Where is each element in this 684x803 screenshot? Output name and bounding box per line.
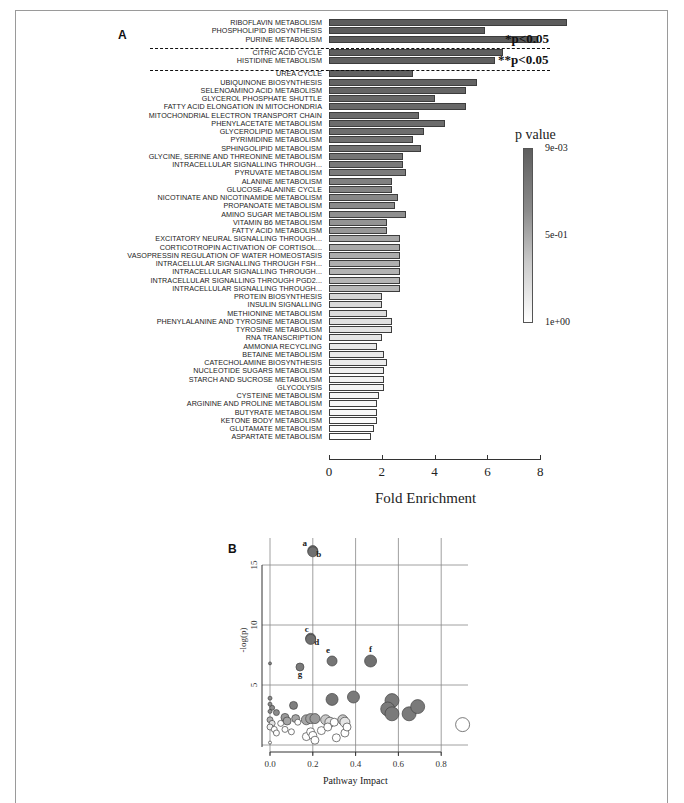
data-point [269, 741, 272, 744]
y-tick-label: 15 [249, 560, 259, 570]
data-point [330, 718, 338, 726]
data-point [343, 723, 351, 731]
data-point [268, 709, 272, 713]
data-point [268, 702, 272, 706]
x-tick-label: 0.2 [307, 759, 318, 769]
data-point [282, 726, 288, 732]
point-label-g: g [298, 669, 303, 679]
data-point [332, 734, 340, 742]
pathway-impact-scatter-plot: 0.00.20.40.60.851015-log(p)abcdefg [0, 0, 684, 803]
data-point [268, 696, 272, 700]
point-label-a: a [303, 538, 308, 548]
x-tick-label: 0.6 [393, 759, 405, 769]
point-label-b: b [316, 549, 321, 559]
point-label-c: c [305, 624, 309, 634]
data-point [283, 717, 291, 725]
data-point [273, 710, 279, 716]
x-axis-b-title: Pathway Impact [323, 775, 388, 786]
data-point [295, 719, 301, 725]
data-point [385, 707, 399, 721]
data-point [365, 655, 377, 667]
data-point [310, 714, 320, 724]
data-point [288, 729, 294, 735]
point-label-e: e [326, 645, 330, 655]
data-point [347, 691, 359, 703]
data-point [411, 700, 425, 714]
x-tick-label: 0.4 [350, 759, 362, 769]
point-label-d: d [314, 637, 319, 647]
x-tick-label: 0.0 [264, 759, 276, 769]
data-point [273, 730, 279, 736]
y-tick-label: 5 [249, 682, 259, 687]
y-axis-b-title: -log(p) [238, 628, 248, 653]
data-point [456, 718, 470, 732]
point-label-f: f [369, 644, 373, 654]
x-tick-label: 0.8 [436, 759, 448, 769]
data-point [326, 693, 338, 705]
data-point [311, 736, 319, 744]
data-point [290, 701, 298, 709]
data-point [327, 656, 337, 666]
data-point [278, 720, 284, 726]
data-point [269, 662, 272, 665]
y-tick-label: 10 [249, 620, 259, 630]
